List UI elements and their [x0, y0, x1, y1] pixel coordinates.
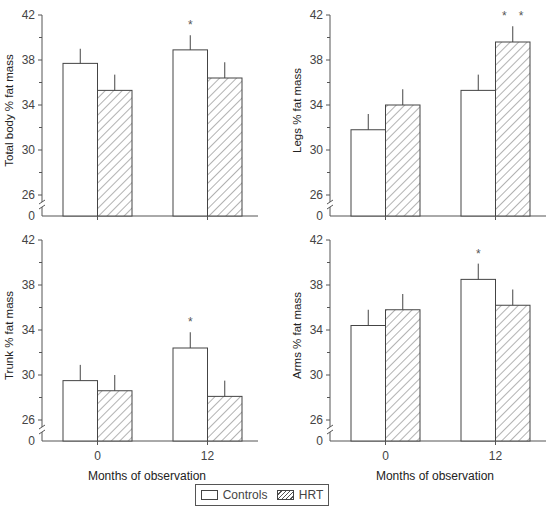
y-tick-label: 42 [310, 233, 324, 247]
x-axis-label: Months of observation [88, 469, 206, 483]
y-tick-label: 0 [316, 209, 323, 223]
y-tick-label: 30 [310, 368, 324, 382]
bar-hrt-12 [208, 78, 243, 216]
y-axis-label: Total body % fat mass [3, 54, 15, 167]
panel-4: 26303438420Arms % fat mass0*12Months of … [291, 233, 546, 483]
y-tick-label: 26 [310, 188, 324, 202]
x-tick-label: 0 [94, 449, 101, 463]
panel-2: 26303438420Legs % fat mass* * [291, 8, 546, 223]
bar-hrt-0 [386, 105, 421, 216]
legend: Controls HRT [195, 484, 329, 506]
y-tick-label: 26 [22, 188, 36, 202]
controls-swatch-icon [201, 490, 218, 500]
hrt-swatch-icon [277, 490, 294, 500]
bar-hrt-12 [208, 396, 243, 441]
bar-controls-12 [173, 348, 208, 441]
y-tick-label: 30 [22, 368, 36, 382]
y-tick-label: 0 [316, 434, 323, 448]
legend-label-hrt: HRT [299, 488, 323, 502]
y-tick-label: 34 [310, 98, 324, 112]
bar-controls-0 [351, 326, 386, 442]
significance-marker: * * [502, 9, 524, 23]
significance-marker: * [188, 315, 193, 329]
bar-controls-12 [173, 50, 208, 216]
y-tick-label: 0 [28, 209, 35, 223]
bar-hrt-0 [98, 90, 133, 216]
y-tick-label: 42 [22, 8, 36, 22]
x-tick-label: 12 [489, 449, 503, 463]
significance-marker: * [476, 247, 481, 261]
bar-controls-0 [351, 130, 386, 216]
bar-hrt-0 [98, 391, 133, 441]
legend-item-hrt: HRT [277, 488, 323, 502]
legend-item-controls: Controls [201, 488, 268, 502]
y-tick-label: 0 [28, 434, 35, 448]
y-tick-label: 30 [310, 143, 324, 157]
y-tick-label: 26 [22, 413, 36, 427]
y-axis-label: Trunk % fat mass [3, 291, 15, 380]
y-tick-label: 42 [22, 233, 36, 247]
y-axis-label: Arms % fat mass [291, 292, 303, 379]
y-tick-label: 34 [22, 323, 36, 337]
panel-3: 26303438420Trunk % fat mass0*12Months of… [3, 233, 258, 483]
y-tick-label: 26 [310, 413, 324, 427]
bar-controls-12 [461, 279, 496, 441]
chart-figure: 26303438420Total body % fat mass*2630343… [0, 0, 557, 523]
y-tick-label: 30 [22, 143, 36, 157]
y-tick-label: 38 [310, 278, 324, 292]
legend-label-controls: Controls [223, 488, 268, 502]
x-tick-label: 12 [201, 449, 215, 463]
bar-controls-12 [461, 90, 496, 216]
bar-hrt-12 [496, 305, 531, 441]
y-tick-label: 34 [22, 98, 36, 112]
bar-controls-0 [63, 381, 98, 441]
bar-hrt-0 [386, 310, 421, 441]
significance-marker: * [188, 18, 193, 32]
y-tick-label: 38 [310, 53, 324, 67]
panel-1: 26303438420Total body % fat mass* [3, 8, 258, 223]
y-tick-label: 38 [22, 278, 36, 292]
y-tick-label: 34 [310, 323, 324, 337]
x-axis-label: Months of observation [376, 469, 494, 483]
y-tick-label: 38 [22, 53, 36, 67]
y-tick-label: 42 [310, 8, 324, 22]
bar-controls-0 [63, 63, 98, 216]
bar-hrt-12 [496, 42, 531, 216]
x-tick-label: 0 [382, 449, 389, 463]
y-axis-label: Legs % fat mass [291, 68, 303, 153]
